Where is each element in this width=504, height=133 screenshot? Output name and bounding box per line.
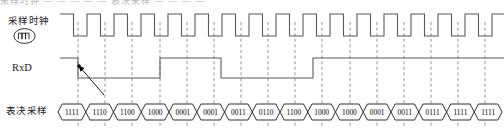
bus-cell-value: 1100 [120,108,135,117]
bus-cell-value: 0110 [259,108,274,117]
rxd-trace [60,58,504,78]
bus-cell-value: 1000 [342,108,357,117]
bus-cell-value: 1111 [481,108,495,117]
sample-clock-trace [60,14,504,36]
bus-cell-value: 1000 [148,108,163,117]
bus-cell-value: 0001 [175,108,190,117]
bus-cell-value: 0001 [370,108,385,117]
bus-cell-value: 1110 [93,108,108,117]
falling-edge-callout-arrow [77,64,104,95]
callout-arrow-line [79,66,104,95]
timing-diagram: 采样时钟 — — — — — 表决采样 — — — — 采样时钟 RxD 表决采… [0,0,504,133]
bus-cell-value: 1111 [453,108,467,117]
waveform-canvas: 1111111011001000000100010011011011001000… [0,0,504,133]
bus-cell-value: 0001 [203,108,218,117]
bus-cell-value: 0011 [231,108,246,117]
falling-edge-marker-dot [77,64,80,67]
voting-sample-bus-row: 1111111011001000000100010011011011001000… [58,104,502,120]
bus-cell-value: 0011 [398,108,413,117]
bus-cell-value: 1100 [287,108,302,117]
bus-cell-value: 1000 [314,108,329,117]
bus-cell-value: 0111 [426,108,441,117]
bus-cell-value: 1111 [65,108,79,117]
sample-clock-waveform [60,14,504,36]
rxd-waveform [60,58,504,78]
